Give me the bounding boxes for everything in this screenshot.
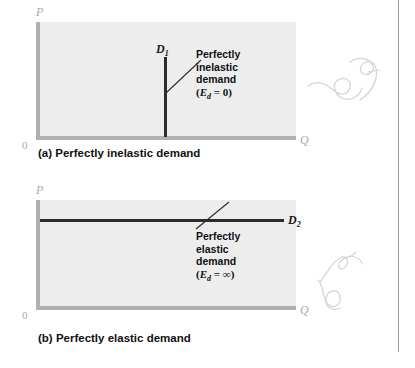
leader-line-b <box>196 202 230 230</box>
demand-curve-subscript-d1: 1 <box>165 49 169 58</box>
annotation-b-line1: Perfectly <box>196 230 240 243</box>
elasticity-close-paren-a: ) <box>228 86 232 98</box>
price-axis-label-a: P <box>36 6 43 18</box>
price-axis-a <box>36 22 40 140</box>
annotation-b: Perfectly elastic demand (Ed = ∞) <box>196 230 240 285</box>
annotation-b-line3: demand <box>196 255 240 268</box>
quantity-axis-label-a: Q <box>300 134 309 146</box>
annotation-a-line2: inelastic <box>196 61 240 74</box>
elasticity-equals-b: = <box>211 268 223 280</box>
figure-panel-a: P Q 0 D1 Perfectly inelastic demand (Ed … <box>0 0 330 170</box>
quantity-axis-label-b: Q <box>300 304 309 316</box>
page-edge-rule <box>398 0 399 352</box>
origin-label-b: 0 <box>22 310 28 321</box>
demand-curve-d2 <box>40 219 284 222</box>
panel-caption-b: (b) Perfectly elastic demand <box>38 333 191 345</box>
figure-panel-b: P Q 0 D2 Perfectly elastic demand (Ed = … <box>0 178 330 358</box>
elasticity-equals-a: = <box>211 86 223 98</box>
annotation-a-line1: Perfectly <box>196 48 240 61</box>
elasticity-formula-b: (Ed = ∞) <box>196 268 240 286</box>
demand-curve-letter-d2: D <box>288 213 297 227</box>
elasticity-symbol-a: E <box>200 86 207 98</box>
elasticity-close-paren-b: ) <box>231 268 235 280</box>
annotation-a: Perfectly inelastic demand (Ed = 0) <box>196 48 240 103</box>
demand-curve-letter-d1: D <box>156 42 165 56</box>
plot-area-b <box>40 200 296 308</box>
annotation-b-line2: elastic <box>196 243 240 256</box>
quantity-axis-b <box>36 306 296 310</box>
demand-curve-label-d1: D1 <box>156 43 169 58</box>
annotation-a-line3: demand <box>196 73 240 86</box>
demand-curve-subscript-d2: 2 <box>297 220 301 229</box>
demand-curve-label-d2: D2 <box>288 214 301 229</box>
elasticity-value-b: ∞ <box>223 268 231 280</box>
elasticity-formula-a: (Ed = 0) <box>196 86 240 104</box>
elasticity-symbol-b: E <box>200 268 207 280</box>
price-axis-label-b: P <box>36 184 43 196</box>
panel-caption-a: (a) Perfectly inelastic demand <box>38 148 200 160</box>
origin-label-a: 0 <box>22 140 28 151</box>
price-axis-b <box>36 200 40 310</box>
